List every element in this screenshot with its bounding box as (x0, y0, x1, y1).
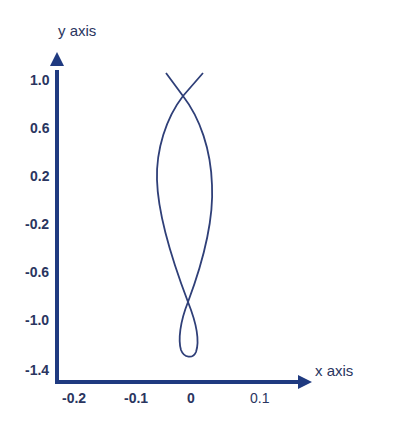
y-tick-label: 1.0 (30, 72, 49, 88)
x-axis-title: x axis (315, 362, 353, 379)
x-tick-label: 0 (187, 390, 195, 406)
y-tick-label: 0.6 (30, 120, 49, 136)
y-tick-label: -1.0 (25, 312, 49, 328)
curve-series (157, 73, 212, 357)
y-tick-label: 0.2 (30, 168, 49, 184)
x-tick-label: 0.1 (250, 390, 269, 406)
plot-area (0, 0, 393, 421)
x-tick-label: -0.1 (124, 390, 148, 406)
x-tick-label: -0.2 (62, 390, 86, 406)
y-tick-label: -0.2 (25, 216, 49, 232)
y-axis-arrow-icon (50, 52, 64, 66)
y-tick-label: -0.6 (25, 264, 49, 280)
x-axis-arrow-icon (298, 375, 312, 389)
y-axis-title: y axis (58, 22, 96, 39)
y-tick-label: -1.4 (25, 362, 49, 378)
